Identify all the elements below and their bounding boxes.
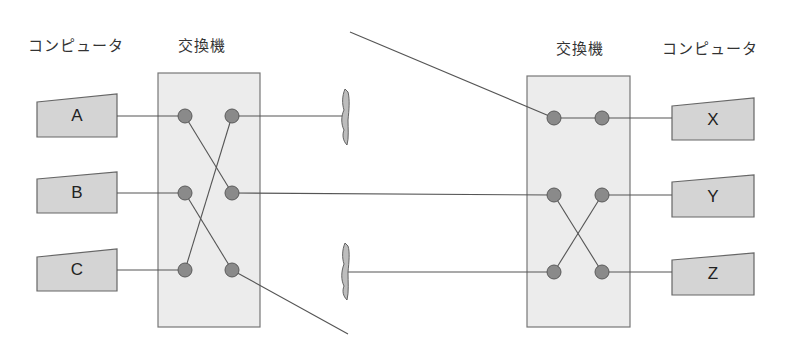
left-node-out-3 [225, 263, 239, 277]
left-node-out-2 [225, 186, 239, 200]
network-diagram [0, 0, 793, 358]
right-in-top-diagonal [350, 32, 554, 118]
right-node-out-3 [595, 265, 609, 279]
right-node-in-1 [547, 111, 561, 125]
right-node-in-2 [547, 188, 561, 202]
right-node-out-1 [595, 111, 609, 125]
computer-b-label: B [37, 183, 117, 203]
computer-c-label: C [37, 260, 117, 280]
computer-z-label: Z [673, 264, 753, 284]
left-node-out-1 [225, 109, 239, 123]
right-node-in-3 [547, 265, 561, 279]
computer-a-label: A [37, 106, 117, 126]
left-node-in-2 [178, 186, 192, 200]
left-switch-box [158, 73, 260, 327]
left-out-middle-trunk [232, 193, 554, 195]
cable-cut-bottom-icon [342, 243, 349, 300]
right-node-out-2 [595, 188, 609, 202]
cable-cut-top-icon [342, 89, 349, 145]
computer-y-label: Y [673, 187, 753, 207]
left-node-in-1 [178, 109, 192, 123]
computer-x-label: X [673, 110, 753, 130]
left-node-in-3 [178, 263, 192, 277]
